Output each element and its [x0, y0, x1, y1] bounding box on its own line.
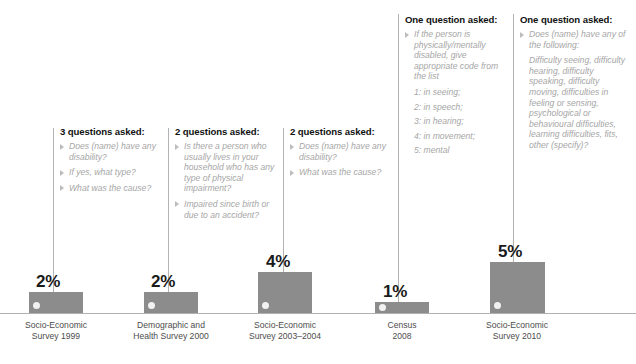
annotation-question-text: Does (name) have any of the following: — [529, 29, 626, 50]
annotation-subitem: 5: mental — [405, 145, 509, 156]
annotation-subitem: 2: in speech; — [405, 102, 509, 113]
annotation-question-text: Is there a person who usually lives in y… — [184, 141, 274, 193]
annotation-question: Impaired since birth or due to an accide… — [175, 199, 279, 220]
annotation-block-1: 3 questions asked: Does (name) have any … — [60, 126, 164, 198]
bar-value-5: 5% — [498, 242, 522, 262]
annotation-question-text: Impaired since birth or due to an accide… — [184, 199, 269, 220]
annotation-title-4: One question asked: — [405, 14, 509, 25]
annotation-question: What was the cause? — [60, 183, 164, 194]
triangle-bullet-icon — [290, 144, 294, 150]
x-axis-baseline — [0, 313, 636, 314]
disability-prevalence-chart: 3 questions asked: Does (name) have any … — [0, 0, 636, 364]
bar-2 — [144, 292, 198, 313]
annotation-question: Does (name) have any disability? — [290, 141, 394, 162]
annotation-question-text: If the person is physically/mentally dis… — [414, 29, 498, 81]
x-axis-label-1: Socio-Economic Survey 1999 — [6, 320, 106, 342]
annotation-question-text: Does (name) have any disability? — [299, 141, 386, 162]
bar-value-2: 2% — [151, 272, 175, 292]
bar-dot-marker-icon — [262, 302, 269, 309]
annotation-question: If yes, what type? — [60, 167, 164, 178]
triangle-bullet-icon — [405, 32, 409, 38]
triangle-bullet-icon — [175, 201, 179, 207]
x-axis-label-5: Socio-Economic Survey 2010 — [467, 320, 567, 342]
bar-dot-marker-icon — [33, 302, 40, 309]
x-axis-label-3: Socio-Economic Survey 2003–2004 — [235, 320, 335, 342]
annotation-block-3: 2 questions asked: Does (name) have any … — [290, 126, 394, 183]
triangle-bullet-icon — [290, 170, 294, 176]
annotation-title-5: One question asked: — [520, 14, 630, 25]
bar-value-3: 4% — [266, 252, 290, 272]
stem-line-4 — [398, 14, 399, 308]
annotation-question-text: What was the cause? — [299, 167, 381, 177]
triangle-bullet-icon — [60, 185, 64, 191]
bar-4 — [375, 302, 429, 313]
triangle-bullet-icon — [520, 32, 524, 38]
annotation-question: Does (name) have any of the following: — [520, 29, 630, 50]
bar-dot-marker-icon — [148, 302, 155, 309]
annotation-block-4: One question asked: If the person is phy… — [405, 14, 509, 160]
bar-dot-marker-icon — [379, 304, 386, 311]
x-axis-label-2: Demographic and Health Survey 2000 — [121, 320, 221, 342]
triangle-bullet-icon — [60, 144, 64, 150]
bar-value-4: 1% — [383, 282, 407, 302]
annotation-title-3: 2 questions asked: — [290, 126, 394, 137]
annotation-title-2: 2 questions asked: — [175, 126, 279, 137]
annotation-question: Is there a person who usually lives in y… — [175, 141, 279, 194]
x-axis-label-4: Census 2008 — [352, 320, 452, 342]
bar-value-1: 2% — [36, 272, 60, 292]
triangle-bullet-icon — [175, 144, 179, 150]
annotation-question-text: Does (name) have any disability? — [69, 141, 156, 162]
annotation-block-2: 2 questions asked: Is there a person who… — [175, 126, 279, 225]
annotation-block-5: One question asked: Does (name) have any… — [520, 14, 630, 151]
bar-3 — [258, 272, 312, 313]
annotation-subitem: 1: in seeing; — [405, 87, 509, 98]
annotation-question: If the person is physically/mentally dis… — [405, 29, 509, 82]
annotation-question-text: If yes, what type? — [69, 167, 136, 177]
annotation-detail-text: Difficulty seeing, difficulty hearing, d… — [520, 55, 630, 150]
triangle-bullet-icon — [60, 170, 64, 176]
annotation-question-text: What was the cause? — [69, 183, 151, 193]
bar-5 — [490, 262, 545, 313]
annotation-title-1: 3 questions asked: — [60, 126, 164, 137]
bar-1 — [29, 292, 83, 313]
annotation-question: What was the cause? — [290, 167, 394, 178]
annotation-subitem: 3: in hearing; — [405, 116, 509, 127]
bar-dot-marker-icon — [494, 302, 501, 309]
annotation-subitem: 4: in movement; — [405, 131, 509, 142]
annotation-question: Does (name) have any disability? — [60, 141, 164, 162]
